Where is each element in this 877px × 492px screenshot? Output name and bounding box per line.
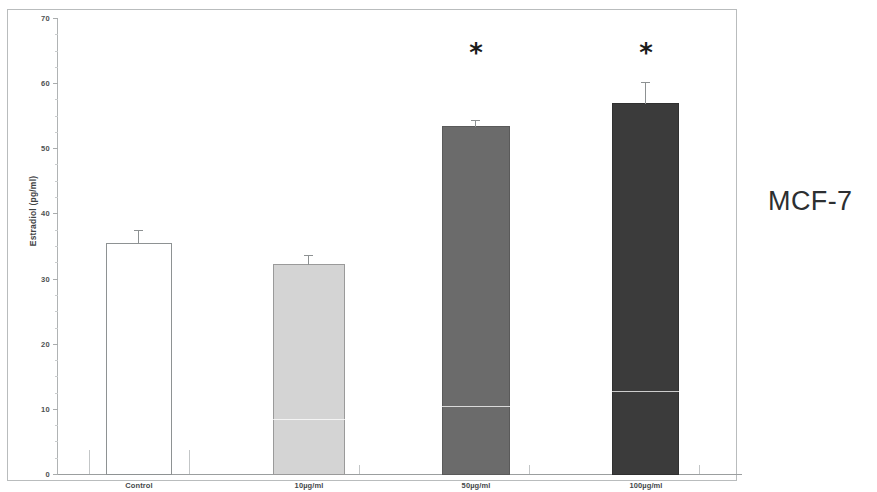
error-bar-control: [138, 230, 139, 244]
y-tick-minor: [55, 360, 58, 361]
y-tick-minor: [55, 441, 58, 442]
bar-10ug: [273, 264, 345, 475]
y-tick-minor: [55, 164, 58, 165]
x-tick: [189, 450, 190, 474]
y-tick-30: [53, 279, 58, 280]
y-tick-minor: [55, 458, 58, 459]
bar-100ug: [612, 103, 679, 475]
x-axis-label-100ug: 100µg/ml: [606, 481, 686, 490]
bar-50ug: [442, 126, 510, 475]
y-axis-label-60: 60: [24, 79, 50, 88]
error-cap-10ug: [304, 255, 313, 256]
y-tick-minor: [55, 425, 58, 426]
error-bar-50ug: [475, 120, 476, 127]
y-axis-label-20: 20: [24, 340, 50, 349]
bar-control: [106, 243, 172, 475]
x-axis-label-50ug: 50µg/ml: [436, 481, 516, 490]
y-axis-label-10: 10: [24, 405, 50, 414]
y-axis-label-40: 40: [24, 209, 50, 218]
significance-asterisk-100ug: *: [634, 40, 658, 66]
y-tick-minor: [55, 51, 58, 52]
y-tick-0: [53, 474, 58, 475]
y-axis-label-70: 70: [24, 14, 50, 23]
y-tick-minor: [55, 376, 58, 377]
y-tick-minor: [55, 311, 58, 312]
y-axis-label-50: 50: [24, 144, 50, 153]
y-tick-minor: [55, 230, 58, 231]
cell-line-label: MCF-7: [768, 186, 853, 217]
y-tick-40: [53, 213, 58, 214]
chart-frame: Estradiol (pg/ml) 70 60 50 40: [7, 9, 737, 481]
y-tick-minor: [55, 262, 58, 263]
y-tick-minor: [55, 393, 58, 394]
error-cap-100ug: [641, 82, 650, 83]
y-tick-minor: [55, 67, 58, 68]
y-tick-minor: [55, 295, 58, 296]
x-tick: [89, 450, 90, 474]
x-tick: [699, 465, 700, 474]
y-tick-50: [53, 148, 58, 149]
y-tick-20: [53, 344, 58, 345]
error-cap-50ug: [471, 120, 480, 121]
y-tick-minor: [55, 246, 58, 247]
y-tick-minor: [55, 99, 58, 100]
x-tick: [529, 465, 530, 474]
y-tick-10: [53, 409, 58, 410]
y-tick-minor: [55, 34, 58, 35]
x-tick: [359, 465, 360, 474]
figure-canvas: Estradiol (pg/ml) 70 60 50 40: [0, 0, 877, 492]
y-tick-minor: [55, 132, 58, 133]
x-axis-label-control: Control: [99, 481, 179, 490]
y-tick-minor: [55, 181, 58, 182]
y-tick-minor: [55, 328, 58, 329]
y-tick-70: [53, 18, 58, 19]
y-axis-label-30: 30: [24, 275, 50, 284]
y-tick-minor: [55, 116, 58, 117]
y-tick-minor: [55, 197, 58, 198]
error-bar-100ug: [645, 82, 646, 104]
y-axis-label-0: 0: [24, 470, 50, 479]
error-bar-10ug: [308, 255, 309, 265]
x-axis-label-10ug: 10µg/ml: [269, 481, 349, 490]
error-cap-control: [134, 230, 143, 231]
y-tick-60: [53, 83, 58, 84]
significance-asterisk-50ug: *: [464, 40, 488, 66]
